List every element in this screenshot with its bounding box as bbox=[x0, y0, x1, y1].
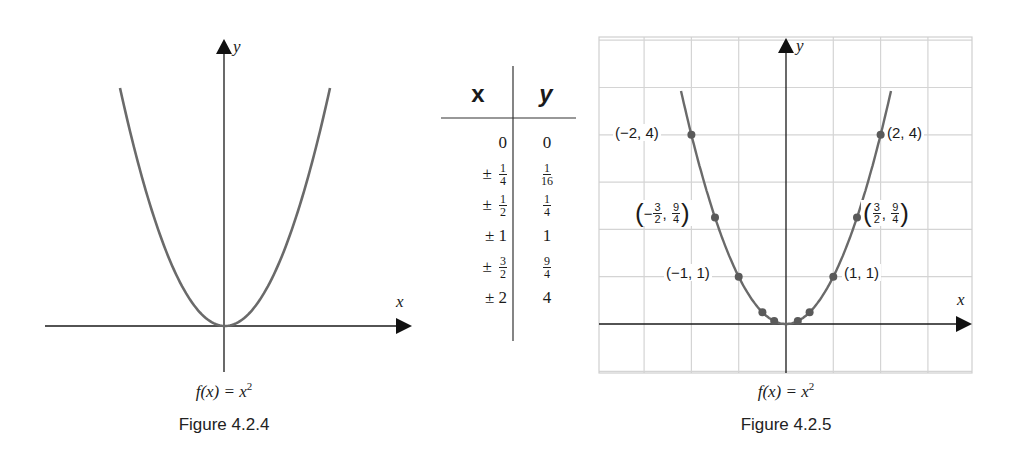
denominator: 2 bbox=[654, 214, 660, 225]
open-paren: ( bbox=[635, 200, 644, 226]
sign: − bbox=[644, 205, 653, 222]
data-point bbox=[770, 317, 778, 325]
point-label-neg2-4: (−2, 4) bbox=[613, 124, 661, 141]
data-point bbox=[853, 214, 861, 222]
function-text: f(x) = x bbox=[758, 382, 809, 401]
data-point bbox=[829, 273, 837, 281]
exponent: 2 bbox=[809, 380, 815, 392]
close-paren: ) bbox=[681, 200, 690, 226]
y-fraction: 94 bbox=[672, 202, 680, 225]
x-axis-arrow-icon bbox=[956, 316, 972, 332]
point-label-32-94: (32, 94) bbox=[861, 200, 911, 226]
data-point bbox=[794, 317, 802, 325]
x-axis-label: x bbox=[957, 290, 965, 310]
y-fraction: 94 bbox=[891, 202, 899, 225]
data-point bbox=[711, 214, 719, 222]
open-paren: ( bbox=[863, 200, 872, 226]
y-axis-label: y bbox=[796, 36, 804, 56]
point-label-neg1-1: (−1, 1) bbox=[664, 264, 712, 281]
denominator: 4 bbox=[892, 214, 898, 225]
data-point bbox=[735, 273, 743, 281]
point-label-neg32-94: (−32, 94) bbox=[633, 200, 692, 226]
data-point bbox=[758, 308, 766, 316]
function-label: f(x) = x2 bbox=[736, 380, 836, 402]
x-fraction: 32 bbox=[653, 202, 661, 225]
numerator: 3 bbox=[873, 202, 881, 214]
point-label-2-4: (2, 4) bbox=[885, 124, 924, 141]
denominator: 4 bbox=[673, 214, 679, 225]
data-point bbox=[806, 308, 814, 316]
data-point bbox=[877, 131, 885, 139]
x-fraction: 32 bbox=[873, 202, 881, 225]
denominator: 2 bbox=[874, 214, 880, 225]
numerator: 3 bbox=[653, 202, 661, 214]
data-point bbox=[687, 131, 695, 139]
close-paren: ) bbox=[900, 200, 909, 226]
numerator: 9 bbox=[672, 202, 680, 214]
figure-caption: Figure 4.2.5 bbox=[726, 415, 846, 435]
numerator: 9 bbox=[891, 202, 899, 214]
point-label-1-1: (1, 1) bbox=[842, 264, 881, 281]
